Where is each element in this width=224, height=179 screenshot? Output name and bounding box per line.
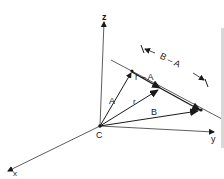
vector-A [100, 69, 134, 126]
vector-r-label: r [133, 97, 136, 106]
x-axis [8, 126, 100, 171]
y-axis [100, 126, 214, 132]
z-axis-label: z [102, 12, 107, 22]
vector-A-label: A [109, 96, 115, 106]
line-through-A-B [111, 60, 222, 119]
origin-label: C [96, 130, 103, 140]
x-axis-label: x [13, 169, 17, 178]
origin-point [98, 124, 102, 128]
page-edge [221, 28, 224, 148]
r-minus-A-label: r – A [135, 72, 154, 82]
z-axis [100, 22, 104, 126]
B-minus-A-label: B – A [158, 51, 182, 69]
vector-line-diagram: z x y A r B C [0, 0, 224, 179]
vector-B-label: B [151, 107, 157, 117]
y-axis-label: y [211, 134, 216, 144]
